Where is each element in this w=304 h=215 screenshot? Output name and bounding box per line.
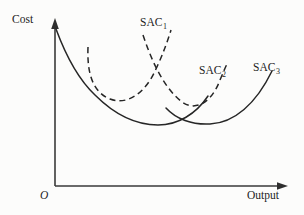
sac-3-label-subscript: 3 <box>275 67 280 76</box>
y-axis-arrow-icon <box>51 18 59 29</box>
origin-label: O <box>40 190 48 202</box>
diagram-canvas <box>0 0 304 215</box>
sac-1-label-subscript: 1 <box>162 22 167 31</box>
sac-2-label: SAC2 <box>199 65 226 79</box>
sac-1-dashed-curve <box>88 30 171 101</box>
sac-1-label-base: SAC <box>140 16 162 28</box>
sac-3-label: SAC3 <box>253 62 280 76</box>
sac-2-label-base: SAC <box>199 64 221 76</box>
y-axis-label: Cost <box>12 14 33 26</box>
lac-envelope-left-curve <box>56 29 208 125</box>
x-axis-label: Output <box>247 190 279 202</box>
sac-2-label-subscript: 2 <box>221 70 226 79</box>
sac-1-label: SAC1 <box>140 17 167 31</box>
cost-curve-figure: Cost Output O SAC1 SAC2 SAC3 <box>0 0 304 215</box>
sac-3-label-base: SAC <box>253 61 275 73</box>
